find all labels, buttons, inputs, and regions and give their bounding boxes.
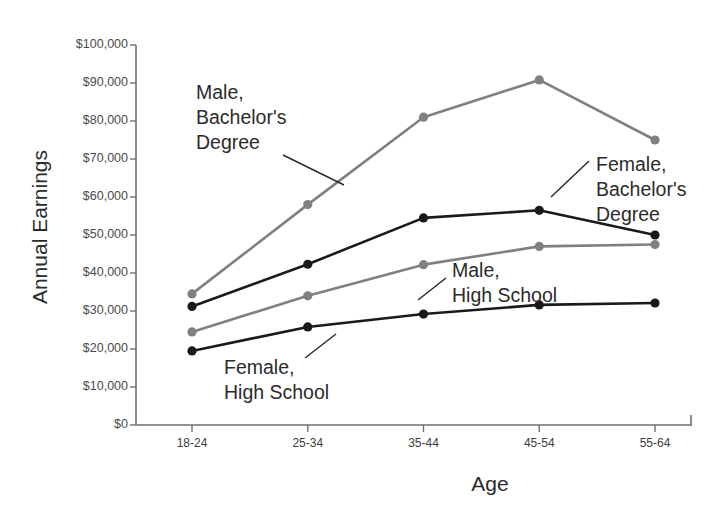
y-axis-tick-label: $100,000: [36, 37, 128, 51]
series-data-point: [187, 289, 196, 298]
series-data-point: [419, 309, 428, 318]
annotation-female-highschool: Female, High School: [224, 355, 329, 405]
y-axis-tick-label: $60,000: [36, 189, 128, 203]
annotation-male-highschool: Male, High School: [452, 258, 557, 308]
series-data-point: [187, 346, 196, 355]
series-data-point: [187, 302, 196, 311]
series-data-point: [303, 291, 312, 300]
series-data-point: [419, 213, 428, 222]
series-data-point: [535, 75, 544, 84]
series-data-point: [303, 200, 312, 209]
y-axis-tick-label: $0: [36, 417, 128, 431]
leader-line-female-bachelors: [551, 161, 589, 197]
series-data-point: [650, 298, 659, 307]
series-data-point: [187, 327, 196, 336]
series-data-point: [303, 322, 312, 331]
series-data-point: [650, 135, 659, 144]
leader-line-male-highschool: [418, 278, 446, 300]
y-axis-tick-label: $30,000: [36, 303, 128, 317]
leader-line-male-bachelors: [283, 155, 344, 185]
x-axis-tick-label: 25-34: [263, 436, 353, 450]
y-axis-tick-label: $10,000: [36, 379, 128, 393]
series-line: [192, 245, 655, 332]
x-axis-tick-label: 18-24: [147, 436, 237, 450]
series-data-point: [303, 260, 312, 269]
data-series: [187, 298, 659, 355]
x-axis-tick-label: 35-44: [379, 436, 469, 450]
series-line: [192, 210, 655, 306]
y-axis-ticks: [130, 45, 136, 425]
y-axis-tick-label: $70,000: [36, 151, 128, 165]
annotation-male-bachelors: Male, Bachelor's Degree: [196, 80, 286, 155]
y-axis-tick-label: $40,000: [36, 265, 128, 279]
x-axis-ticks: [192, 425, 655, 432]
y-axis-tick-label: $80,000: [36, 113, 128, 127]
series-data-point: [650, 240, 659, 249]
y-axis-tick-label: $20,000: [36, 341, 128, 355]
earnings-line-chart: Annual Earnings Age $100,000$90,000$80,0…: [0, 0, 718, 522]
annotation-female-bachelors: Female, Bachelor's Degree: [596, 152, 686, 227]
series-data-point: [535, 206, 544, 215]
y-axis-tick-label: $90,000: [36, 75, 128, 89]
series-data-point: [419, 260, 428, 269]
x-axis-title: Age: [430, 472, 550, 496]
series-data-point: [419, 113, 428, 122]
series-data-point: [650, 230, 659, 239]
series-data-point: [535, 242, 544, 251]
x-axis-tick-label: 45-54: [494, 436, 584, 450]
data-series: [187, 240, 659, 337]
y-axis-tick-label: $50,000: [36, 227, 128, 241]
x-axis-tick-label: 55-64: [610, 436, 700, 450]
